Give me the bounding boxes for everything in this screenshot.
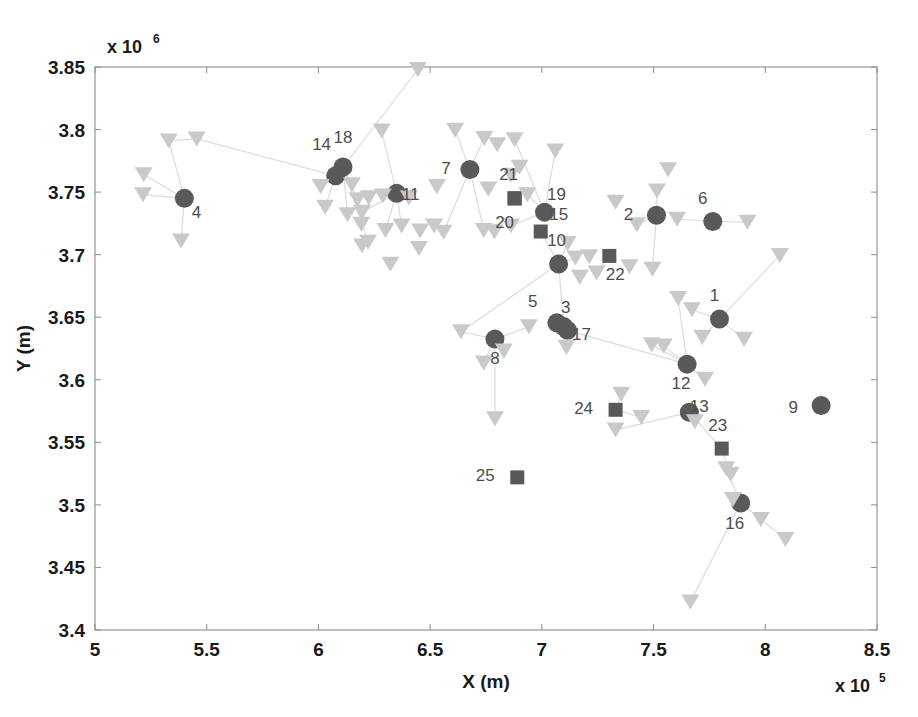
point-label-12: 12 <box>672 374 691 393</box>
link-line <box>382 131 397 194</box>
y-tick-label: 3.75 <box>48 182 85 203</box>
cluster-head-circle[interactable] <box>334 158 353 177</box>
cluster-head-circle[interactable] <box>549 255 568 274</box>
member-node-triangle <box>411 224 429 239</box>
y-tick-label: 3.55 <box>48 432 85 453</box>
point-label-18: 18 <box>334 128 353 147</box>
member-node-triangle <box>316 200 334 215</box>
x-exponent-label: x 10 <box>835 676 870 696</box>
y-tick-label: 3.4 <box>59 620 86 641</box>
member-node-triangle <box>648 183 666 198</box>
link-line <box>343 70 418 168</box>
member-node-triangle <box>571 270 589 285</box>
member-node-triangle <box>410 241 428 256</box>
member-node-triangle <box>312 179 330 194</box>
point-label-8: 8 <box>490 349 499 368</box>
member-node-triangle <box>607 195 625 210</box>
x-tick-label: 8 <box>760 639 771 660</box>
member-node-triangle <box>486 411 504 426</box>
y-tick-label: 3.6 <box>59 370 85 391</box>
cluster-head-circle[interactable] <box>812 396 831 415</box>
y-tick-label: 3.7 <box>59 245 85 266</box>
point-label-14: 14 <box>312 135 331 154</box>
cluster-head-square[interactable] <box>508 191 522 205</box>
cluster-head-circle[interactable] <box>678 355 697 374</box>
member-node-triangle <box>446 123 464 138</box>
x-tick-label: 7 <box>537 639 548 660</box>
member-node-triangle <box>479 182 497 197</box>
cluster-head-square[interactable] <box>510 470 524 484</box>
x-tick-label: 5 <box>90 639 101 660</box>
cluster-head-square[interactable] <box>609 403 623 417</box>
point-label-1: 1 <box>710 286 719 305</box>
point-label-15: 15 <box>549 205 568 224</box>
y-tick-label: 3.65 <box>48 307 85 328</box>
member-node-triangle <box>352 217 370 232</box>
figure-container: 55.566.577.588.53.43.453.53.553.63.653.7… <box>0 0 918 717</box>
y-tick-label: 3.45 <box>48 557 85 578</box>
member-node-triangle <box>435 225 453 240</box>
member-node-triangle <box>135 167 153 182</box>
x-tick-label: 5.5 <box>194 639 221 660</box>
link-line <box>616 412 690 430</box>
point-label-20: 20 <box>495 213 514 232</box>
link-line <box>444 170 470 233</box>
cluster-head-square[interactable] <box>534 225 548 239</box>
point-label-7: 7 <box>441 159 450 178</box>
scatter-plot: 55.566.577.588.53.43.453.53.553.63.653.7… <box>0 0 918 717</box>
point-label-19: 19 <box>547 185 566 204</box>
point-label-25: 25 <box>476 466 495 485</box>
point-label-6: 6 <box>698 189 707 208</box>
point-label-5: 5 <box>528 292 537 311</box>
cluster-head-circle[interactable] <box>710 310 729 329</box>
cluster-head-square[interactable] <box>602 249 616 263</box>
member-node-triangle <box>409 62 427 77</box>
y-exponent-label: x 10 <box>107 37 142 57</box>
link-line <box>678 298 687 364</box>
member-node-triangle <box>566 250 584 265</box>
member-node-triangle <box>506 132 524 147</box>
member-node-triangle <box>338 207 356 222</box>
point-label-2: 2 <box>624 205 633 224</box>
member-node-triangle <box>428 179 446 194</box>
x-axis-title: X (m) <box>462 671 510 692</box>
member-node-triangle <box>686 414 704 429</box>
x-tick-label: 7.5 <box>640 639 667 660</box>
member-node-triangle <box>452 324 470 339</box>
member-node-triangle <box>376 223 394 238</box>
point-label-17: 17 <box>572 325 591 344</box>
point-label-9: 9 <box>788 398 797 417</box>
x-tick-label: 6.5 <box>417 639 444 660</box>
member-node-triangle <box>580 249 598 264</box>
member-node-triangle <box>776 532 794 547</box>
member-node-triangle <box>607 422 625 437</box>
y-tick-label: 3.8 <box>59 120 85 141</box>
point-label-21: 21 <box>499 165 518 184</box>
member-node-triangle <box>588 265 606 280</box>
x-exponent-superscript: 5 <box>879 671 886 685</box>
member-node-triangle <box>696 372 714 387</box>
member-node-triangle <box>172 234 190 249</box>
y-tick-label: 3.5 <box>59 495 86 516</box>
cluster-head-circle[interactable] <box>460 160 479 179</box>
member-node-triangle <box>693 330 711 345</box>
point-label-22: 22 <box>606 265 625 284</box>
cluster-head-square[interactable] <box>715 442 729 456</box>
member-node-triangle <box>488 137 506 152</box>
point-label-13: 13 <box>690 397 709 416</box>
member-node-triangle <box>683 302 701 317</box>
member-node-triangle <box>735 332 753 347</box>
member-node-triangle <box>771 248 789 263</box>
cluster-head-circle[interactable] <box>703 212 722 231</box>
member-node-triangle <box>681 594 699 609</box>
member-node-triangle <box>546 143 564 158</box>
cluster-head-circle[interactable] <box>647 206 666 225</box>
member-node-triangle <box>612 387 630 402</box>
member-node-triangle <box>643 262 661 277</box>
point-label-24: 24 <box>574 399 593 418</box>
y-exponent-superscript: 6 <box>153 32 160 46</box>
point-label-11: 11 <box>402 185 420 204</box>
member-node-triangle <box>373 123 391 138</box>
point-label-23: 23 <box>708 416 727 435</box>
x-tick-label: 8.5 <box>864 639 891 660</box>
